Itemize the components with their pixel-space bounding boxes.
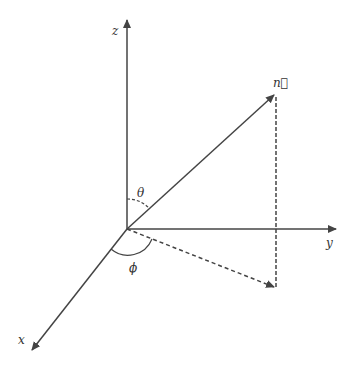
coordinate-diagram: z y x n⃗ θ ϕ bbox=[0, 0, 357, 369]
y-axis-label: y bbox=[325, 236, 333, 250]
xy-projection-line bbox=[127, 229, 274, 287]
n-vector-label: n⃗ bbox=[273, 76, 288, 90]
theta-arc bbox=[127, 199, 149, 208]
x-axis bbox=[32, 229, 127, 350]
phi-label: ϕ bbox=[129, 261, 137, 275]
theta-label: θ bbox=[137, 186, 145, 200]
x-axis-label: x bbox=[18, 333, 25, 347]
z-axis-label: z bbox=[111, 24, 119, 38]
n-vector bbox=[127, 95, 274, 229]
